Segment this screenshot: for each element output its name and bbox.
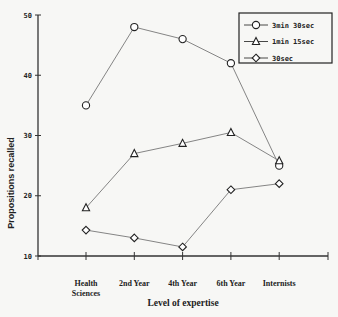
circle-marker-icon: [227, 60, 234, 67]
legend-label: 30sec: [272, 55, 293, 63]
y-tick-label: 10: [24, 253, 32, 261]
series-line: [86, 184, 279, 247]
x-category-label: 6th Year: [216, 279, 245, 288]
circle-marker-icon: [179, 36, 186, 43]
diamond-marker-icon: [131, 234, 139, 242]
series-30sec: [82, 180, 283, 251]
legend-label: 3min 30sec: [272, 22, 314, 30]
series-1min-15sec: [82, 128, 282, 210]
x-category-label: Health: [74, 279, 98, 288]
circle-marker-icon: [82, 102, 89, 109]
circle-marker-icon: [131, 23, 138, 30]
y-tick-label: 20: [24, 192, 32, 200]
x-axis-title: Level of expertise: [147, 298, 218, 308]
x-category-label: 2nd Year: [119, 279, 150, 288]
y-tick-label: 50: [24, 12, 32, 20]
legend-label: 1min 15sec: [272, 38, 314, 46]
y-tick-label: 40: [24, 72, 32, 80]
legend-item: 3min 30sec: [244, 21, 314, 29]
triangle-marker-icon: [227, 128, 234, 135]
y-axis: 1020304050: [24, 12, 41, 261]
line-chart: 1020304050 HealthSciences2nd Year4th Yea…: [0, 0, 338, 317]
legend: 3min 30sec1min 15sec30sec: [239, 13, 332, 63]
circle-marker-icon: [252, 21, 259, 28]
x-category-label: 4th Year: [168, 279, 197, 288]
x-category-label: Internists: [263, 279, 296, 288]
x-axis: HealthSciences2nd Year4th Year6th YearIn…: [38, 252, 328, 298]
y-axis-title: Propositions recalled: [6, 137, 16, 229]
diamond-marker-icon: [82, 226, 90, 234]
y-tick-label: 30: [24, 132, 32, 140]
x-category-label: Sciences: [72, 289, 100, 298]
diamond-marker-icon: [275, 180, 283, 188]
